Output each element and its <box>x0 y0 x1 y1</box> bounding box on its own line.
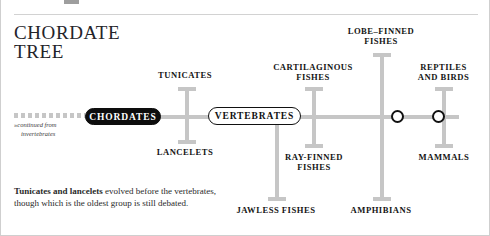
label-lancelets: LANCELETS <box>137 147 233 157</box>
branch-amphibians <box>380 115 384 201</box>
pill-vertebrates[interactable]: VERTEBRATES <box>208 107 301 125</box>
label-lobe-finned-fishes: LOBE–FINNED FISHES <box>326 26 436 47</box>
branch-cartilaginous-fishes <box>312 87 316 117</box>
continued-from-invertebrates-note: »continued from invertebrates <box>14 121 94 138</box>
branch-tunicates <box>185 87 189 117</box>
branch-cap-tunicates <box>178 87 196 91</box>
branch-cap-amphibians <box>373 197 391 201</box>
node-circle-amniotes <box>391 110 404 123</box>
branch-cap-lancelets <box>178 140 196 144</box>
node-circle-synapsids <box>432 110 445 123</box>
branch-cap-cartilaginous-fishes <box>305 87 323 91</box>
branch-cap-reptiles-and-birds <box>435 87 453 91</box>
label-mammals: MAMMALS <box>399 152 489 162</box>
caption-lead-in: Tunicates and lancelets <box>14 186 103 196</box>
branch-cap-lobe-finned-fishes <box>373 53 391 57</box>
branch-cap-ray-finned-fishes <box>305 144 323 148</box>
continuation-line-2: invertebrates <box>14 130 94 139</box>
branch-lobe-finned-fishes <box>380 53 384 117</box>
figure-caption: Tunicates and lancelets evolved before t… <box>14 185 224 209</box>
label-ray-finned-fishes: RAY-FINNED FISHES <box>260 152 368 173</box>
label-reptiles-and-birds: REPTILES AND BIRDS <box>397 62 490 83</box>
branch-cap-jawless-fishes <box>268 197 286 201</box>
page-panel: CHORDATE TREE <box>0 0 490 236</box>
label-tunicates: TUNICATES <box>135 70 235 80</box>
label-amphibians: AMPHIBIANS <box>337 205 425 215</box>
pill-chordates[interactable]: CHORDATES <box>85 108 161 125</box>
label-cartilaginous-fishes: CARTILAGINOUS FISHES <box>257 62 369 83</box>
dotted-continuation-line <box>14 113 85 118</box>
continuation-line-1: continued from <box>17 121 56 128</box>
label-jawless-fishes: JAWLESS FISHES <box>224 205 328 215</box>
branch-cap-mammals <box>435 144 453 148</box>
